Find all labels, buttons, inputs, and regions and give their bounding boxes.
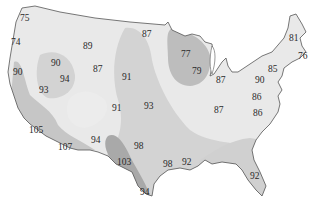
temp-label: 94: [140, 187, 150, 197]
temp-label: 90: [255, 75, 265, 85]
temp-label: 74: [11, 37, 21, 47]
temp-label: 103: [117, 157, 132, 167]
temp-label: 91: [122, 72, 132, 82]
temp-label: 93: [39, 85, 49, 95]
temp-label: 107: [58, 142, 73, 152]
temp-label: 86: [252, 92, 262, 102]
temp-label: 92: [250, 171, 260, 181]
temp-label: 92: [182, 157, 192, 167]
temp-label: 98: [134, 141, 144, 151]
temp-label: 76: [298, 51, 308, 61]
temp-label: 79: [192, 66, 202, 76]
temp-label: 94: [91, 135, 101, 145]
temp-label: 105: [29, 125, 44, 135]
temp-label: 89: [83, 41, 93, 51]
temp-label: 81: [289, 33, 299, 43]
temp-label: 75: [20, 13, 30, 23]
temp-label: 90: [51, 58, 61, 68]
temp-label: 85: [268, 64, 278, 74]
temp-label: 86: [253, 108, 263, 118]
lake-michigan: [210, 46, 215, 74]
temp-label: 98: [163, 159, 173, 169]
temp-label: 87: [93, 64, 103, 74]
temp-label: 94: [60, 74, 70, 84]
temp-label: 87: [214, 105, 224, 115]
temperature-map: 75 74 89 87 77 79 81 76 90 90 94 87 91 8…: [0, 0, 320, 205]
temp-label: 91: [112, 103, 122, 113]
temp-label: 77: [181, 49, 191, 59]
temp-label: 93: [144, 101, 154, 111]
temp-label: 87: [216, 75, 226, 85]
temp-label: 87: [142, 29, 152, 39]
temp-label: 90: [13, 67, 23, 77]
